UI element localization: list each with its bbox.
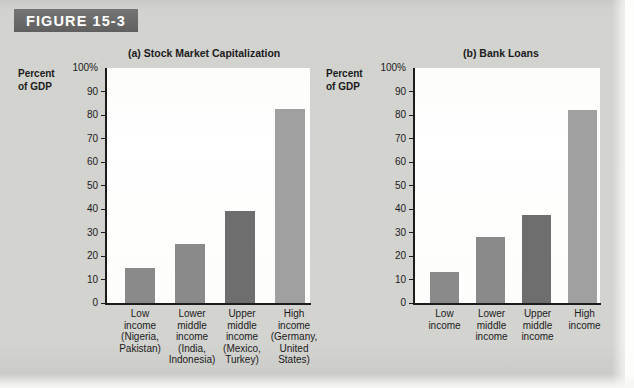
y-tick-mark xyxy=(409,115,414,116)
y-tick-mark xyxy=(101,256,106,257)
bar xyxy=(476,237,505,303)
y-tick-mark xyxy=(101,162,106,163)
x-axis-label: Upper middle income xyxy=(513,308,563,343)
y-tick-mark xyxy=(409,91,414,92)
y-tick-label: 50 xyxy=(365,180,406,191)
chart-b-caption-line1: Percent xyxy=(326,68,363,81)
x-axis-label: High income (Germany, United States) xyxy=(268,308,320,366)
y-tick-mark xyxy=(409,185,414,186)
chart-a-caption-line2: of GDP xyxy=(18,81,55,94)
y-tick-mark xyxy=(101,91,106,92)
y-tick-label: 90 xyxy=(365,86,406,97)
y-tick-label: 40 xyxy=(365,203,406,214)
y-tick-mark xyxy=(409,232,414,233)
y-tick-mark xyxy=(409,279,414,280)
y-tick-mark xyxy=(101,232,106,233)
y-tick-label: 30 xyxy=(365,227,406,238)
x-axis-label: Upper middle income (Mexico, Turkey) xyxy=(216,308,268,366)
x-axis-label: Low income xyxy=(420,308,470,331)
y-tick-label: 50 xyxy=(57,180,98,191)
chart-a-axis-caption: Percent of GDP xyxy=(18,68,55,93)
bar xyxy=(225,211,255,303)
y-tick-mark xyxy=(101,138,106,139)
y-tick-label: 0 xyxy=(57,297,98,308)
chart-b-title: (b) Bank Loans xyxy=(463,47,539,59)
chart-b-y-axis xyxy=(413,68,415,305)
x-axis-label: Lower middle income (India, Indonesia) xyxy=(166,308,218,366)
y-tick-mark xyxy=(101,115,106,116)
y-tick-label: 80 xyxy=(365,109,406,120)
y-tick-label: 100% xyxy=(365,62,406,73)
y-tick-label: 20 xyxy=(57,250,98,261)
bar xyxy=(125,268,155,303)
y-tick-label: 20 xyxy=(365,250,406,261)
y-tick-mark xyxy=(101,303,106,304)
chart-b-axis-caption: Percent of GDP xyxy=(326,68,363,93)
y-tick-mark xyxy=(409,256,414,257)
chart-a-title: (a) Stock Market Capitalization xyxy=(128,47,280,59)
y-tick-mark xyxy=(409,162,414,163)
y-tick-label: 70 xyxy=(365,133,406,144)
bar xyxy=(430,272,459,303)
figure-page: FIGURE 15-3 (a) Stock Market Capitalizat… xyxy=(0,0,634,388)
y-tick-label: 40 xyxy=(57,203,98,214)
chart-a-y-axis xyxy=(105,68,107,305)
bar xyxy=(568,110,597,303)
bar xyxy=(522,215,551,303)
x-axis-label: High income xyxy=(560,308,610,331)
y-tick-label: 90 xyxy=(57,86,98,97)
chart-a-x-axis xyxy=(105,303,311,305)
bar xyxy=(275,109,305,303)
figure-number-label: FIGURE 15-3 xyxy=(26,13,126,29)
y-tick-label: 0 xyxy=(365,297,406,308)
y-tick-mark xyxy=(409,303,414,304)
x-axis-label: Lower middle income xyxy=(467,308,517,343)
bar xyxy=(175,244,205,303)
y-tick-mark xyxy=(101,185,106,186)
y-tick-label: 60 xyxy=(57,156,98,167)
x-axis-label: Low income (Nigeria, Pakistan) xyxy=(114,308,166,354)
y-tick-label: 70 xyxy=(57,133,98,144)
y-tick-label: 100% xyxy=(57,62,98,73)
y-tick-label: 60 xyxy=(365,156,406,167)
chart-a-caption-line1: Percent xyxy=(18,68,55,81)
y-tick-mark xyxy=(409,209,414,210)
y-tick-label: 80 xyxy=(57,109,98,120)
paper-right-edge-inner xyxy=(625,0,634,388)
y-tick-label: 10 xyxy=(57,274,98,285)
y-tick-mark xyxy=(101,279,106,280)
figure-number-banner: FIGURE 15-3 xyxy=(14,9,138,32)
y-tick-label: 30 xyxy=(57,227,98,238)
chart-b-caption-line2: of GDP xyxy=(326,81,363,94)
y-tick-mark xyxy=(101,209,106,210)
y-tick-label: 10 xyxy=(365,274,406,285)
y-tick-mark xyxy=(409,138,414,139)
paper-bottom-edge xyxy=(0,374,634,388)
chart-b-x-axis xyxy=(413,303,601,305)
